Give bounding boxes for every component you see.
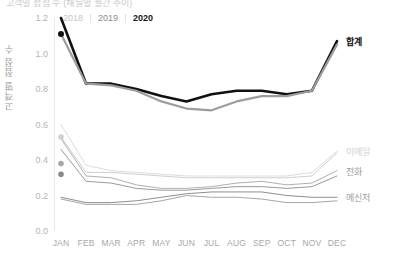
- plot-area: [55, 18, 343, 231]
- y-axis-tick-label: 0.0: [22, 226, 48, 236]
- line-전화-2018: [61, 139, 337, 189]
- data-point-marker: [58, 171, 64, 177]
- y-axis-title: 고객별 접점 수: [2, 22, 16, 132]
- chart-root: 고객별 접점 수 (채널별 월간 추이) 2018 2019 2020 고객별 …: [0, 0, 398, 273]
- line-이메일-2018: [61, 125, 337, 176]
- data-point-marker: [58, 161, 64, 167]
- line-이메일-2019: [61, 137, 337, 178]
- series-label-전화: 전화: [346, 165, 362, 178]
- series-label-합계: 합계: [346, 35, 362, 48]
- chart-title: 고객별 접점 수 (채널별 월간 추이): [6, 0, 206, 8]
- line-합계-2020: [61, 18, 337, 101]
- series-label-이메일: 이메일: [346, 145, 370, 158]
- y-axis-tick-label: 1.0: [22, 49, 48, 59]
- y-axis-tick-label: 0.6: [22, 120, 48, 130]
- data-point-marker: [58, 134, 64, 140]
- data-point-marker: [58, 31, 64, 37]
- x-axis-tick-label: DEC: [322, 238, 352, 248]
- line-메신저-2018: [61, 192, 337, 203]
- series-label-메신저: 메신저: [346, 191, 370, 204]
- y-axis-tick-label: 1.2: [22, 13, 48, 23]
- y-axis-tick-label: 0.2: [22, 191, 48, 201]
- y-axis-tick-label: 0.8: [22, 84, 48, 94]
- y-axis-tick-label: 0.4: [22, 155, 48, 165]
